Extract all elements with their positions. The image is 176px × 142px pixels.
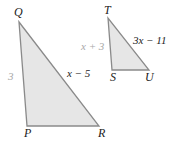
vertex-u-label: U xyxy=(145,70,155,84)
similar-triangles-diagram: Q P R 3 x − 5 T S U x + 3 3x − 11 xyxy=(0,0,176,142)
vertex-r-label: R xyxy=(97,126,106,140)
diagram-canvas: Q P R 3 x − 5 T S U x + 3 3x − 11 xyxy=(0,0,176,142)
vertex-t-label: T xyxy=(104,3,112,17)
vertex-s-label: S xyxy=(110,70,116,84)
vertex-p-label: P xyxy=(23,126,32,140)
side-ts-label: x + 3 xyxy=(80,40,105,52)
side-tu-label: 3x − 11 xyxy=(132,34,167,46)
vertex-q-label: Q xyxy=(14,5,23,19)
side-qr-label: x − 5 xyxy=(66,67,91,79)
side-qp-label: 3 xyxy=(7,70,14,82)
